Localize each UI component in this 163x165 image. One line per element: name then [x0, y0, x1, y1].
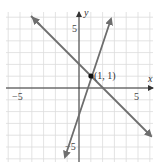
x-tick-label-5: 5: [134, 91, 139, 102]
intersection-point: [88, 73, 93, 78]
intersection-label: (1, 1): [94, 70, 116, 82]
coordinate-plane: x y −5 5 5 −5 (1, 1): [0, 0, 163, 165]
y-tick-label-5: 5: [72, 23, 77, 34]
x-axis-label: x: [147, 73, 153, 84]
line-increasing: [80, 19, 111, 112]
y-axis-label: y: [83, 7, 89, 18]
line-decreasing-start: [33, 18, 40, 25]
x-tick-label-neg5: −5: [12, 91, 23, 102]
